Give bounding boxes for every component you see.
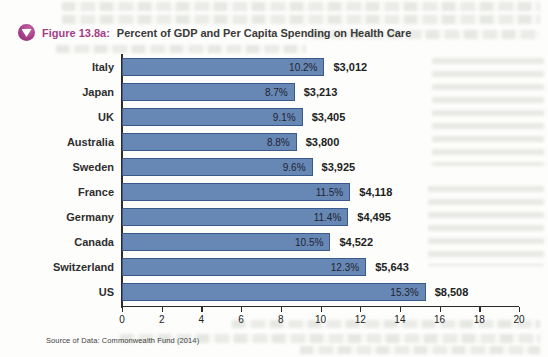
percent-label: 11.5% [316, 186, 344, 197]
page-bleed-through [62, 15, 540, 24]
bar-track: 8.8%$3,800 [122, 133, 519, 151]
chart-row: US15.3%$8,508 [0, 279, 548, 304]
x-axis: 02468101214161820 [122, 306, 519, 333]
category-label: US [0, 286, 122, 298]
page-bleed-through [56, 45, 306, 53]
percent-label: 12.3% [331, 261, 359, 272]
gdp-percent-bar: 9.6% [122, 158, 313, 176]
gdp-percent-bar: 8.7% [122, 83, 295, 101]
x-tick-label: 14 [388, 314, 412, 325]
x-tick [479, 307, 480, 312]
category-label: Germany [0, 211, 122, 223]
chart-row: Japan8.7%$3,213 [0, 79, 548, 104]
bar-track: 15.3%$8,508 [122, 283, 519, 301]
x-tick-label: 20 [507, 314, 531, 325]
source-note: Source of Data: Commonwealth Fund (2014) [46, 336, 199, 345]
bar-track: 11.4%$4,495 [122, 208, 519, 226]
x-tick [321, 307, 322, 312]
percent-label: 10.2% [289, 61, 317, 72]
x-tick [122, 307, 123, 312]
category-label: France [0, 186, 122, 198]
chart-row: Australia8.8%$3,800 [0, 129, 548, 154]
gdp-percent-bar: 11.5% [122, 183, 350, 201]
x-tick-label: 10 [309, 314, 333, 325]
bar-chart-rows: Italy10.2%$3,012Japan8.7%$3,213UK9.1%$3,… [0, 54, 548, 304]
per-capita-label: $3,405 [312, 111, 346, 123]
percent-label: 9.1% [273, 111, 296, 122]
chart-row: Italy10.2%$3,012 [0, 54, 548, 79]
per-capita-label: $4,495 [357, 211, 391, 223]
category-label: UK [0, 111, 122, 123]
category-label: Australia [0, 136, 122, 148]
percent-label: 15.3% [390, 286, 418, 297]
per-capita-label: $4,118 [359, 186, 392, 198]
chart-row: Canada10.5%$4,522 [0, 229, 548, 254]
per-capita-label: $3,012 [333, 61, 367, 73]
gdp-percent-bar: 10.2% [122, 58, 324, 76]
figure-label: Figure 13.8a: [42, 27, 110, 39]
bar-track: 8.7%$3,213 [122, 83, 519, 101]
x-tick-label: 2 [150, 314, 174, 325]
x-tick [440, 307, 441, 312]
per-capita-label: $4,522 [339, 236, 373, 248]
category-label: Italy [0, 61, 122, 73]
chart-row: Sweden9.6%$3,925 [0, 154, 548, 179]
category-label: Sweden [0, 161, 122, 173]
x-tick-label: 6 [229, 314, 253, 325]
triangle-down-icon-glyph [22, 29, 32, 37]
category-label: Japan [0, 86, 122, 98]
x-tick [519, 307, 520, 312]
bar-track: 10.5%$4,522 [122, 233, 519, 251]
chart-row: Switzerland12.3%$5,643 [0, 254, 548, 279]
page-bleed-through [300, 346, 540, 354]
chart-row: UK9.1%$3,405 [0, 104, 548, 129]
bar-track: 9.6%$3,925 [122, 158, 519, 176]
bar-track: 9.1%$3,405 [122, 108, 519, 126]
figure-panel: Figure 13.8a: Percent of GDP and Per Cap… [0, 0, 548, 357]
gdp-percent-bar: 11.4% [122, 208, 348, 226]
per-capita-label: $3,925 [322, 161, 356, 173]
bar-track: 10.2%$3,012 [122, 58, 519, 76]
gdp-percent-bar: 10.5% [122, 233, 330, 251]
bar-chart: Italy10.2%$3,012Japan8.7%$3,213UK9.1%$3,… [0, 54, 548, 333]
x-tick [241, 307, 242, 312]
percent-label: 8.8% [267, 136, 290, 147]
page-bleed-through [62, 2, 540, 11]
x-tick [162, 307, 163, 312]
figure-title: Percent of GDP and Per Capita Spending o… [117, 27, 411, 39]
category-label: Switzerland [0, 261, 122, 273]
per-capita-label: $3,800 [306, 136, 340, 148]
percent-label: 8.7% [265, 86, 288, 97]
per-capita-label: $3,213 [304, 86, 338, 98]
bar-track: 12.3%$5,643 [122, 258, 519, 276]
gdp-percent-bar: 12.3% [122, 258, 366, 276]
percent-label: 11.4% [314, 211, 342, 222]
x-tick-label: 4 [189, 314, 213, 325]
x-tick [360, 307, 361, 312]
chart-row: Germany11.4%$4,495 [0, 204, 548, 229]
x-tick-label: 0 [110, 314, 134, 325]
gdp-percent-bar: 8.8% [122, 133, 297, 151]
percent-label: 9.6% [283, 161, 306, 172]
per-capita-label: $8,508 [435, 286, 469, 298]
per-capita-label: $5,643 [375, 261, 409, 273]
x-tick-label: 8 [269, 314, 293, 325]
x-tick [400, 307, 401, 312]
x-tick [281, 307, 282, 312]
category-label: Canada [0, 236, 122, 248]
x-tick-label: 16 [428, 314, 452, 325]
gdp-percent-bar: 15.3% [122, 283, 426, 301]
percent-label: 10.5% [295, 236, 323, 247]
x-tick-label: 18 [467, 314, 491, 325]
x-tick-label: 12 [348, 314, 372, 325]
bar-track: 11.5%$4,118 [122, 183, 519, 201]
figure-header: Figure 13.8a: Percent of GDP and Per Cap… [18, 24, 411, 41]
x-tick [201, 307, 202, 312]
gdp-percent-bar: 9.1% [122, 108, 303, 126]
chart-row: France11.5%$4,118 [0, 179, 548, 204]
triangle-down-icon [18, 24, 35, 41]
